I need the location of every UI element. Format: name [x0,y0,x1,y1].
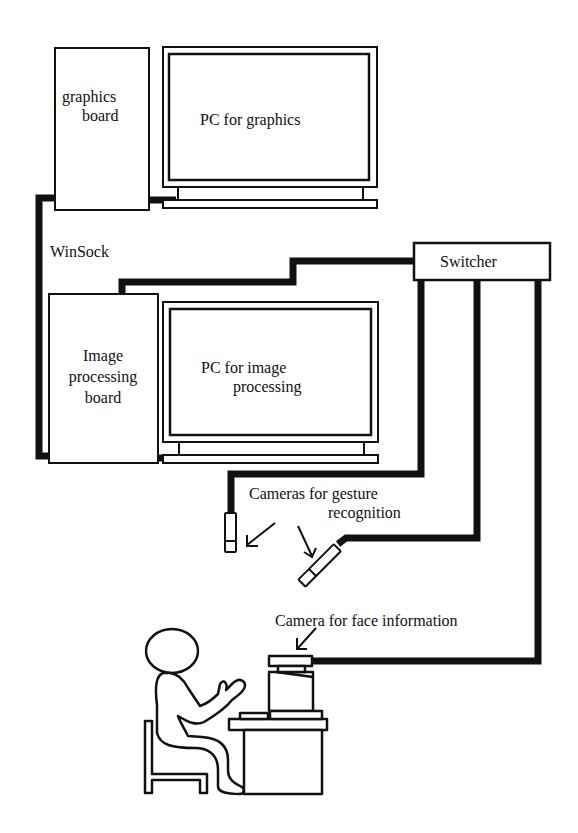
face-camera-icon [269,656,312,666]
graphics-board-box [55,48,149,210]
arrow-to-face-camera-icon [297,628,316,649]
image-board-label: Image processing board [50,346,156,407]
pc-graphics-label: PC for graphics [200,110,300,129]
arrow-to-camera-1-icon [247,523,275,546]
face-camera-label: Camera for face information [275,611,458,630]
gesture-cameras-label: Cameras for gesture recognition [249,484,401,522]
pc-image-label: PC for image processing [201,358,301,396]
switcher-image-board-cable [122,261,414,293]
gesture-camera-2-icon [298,544,340,586]
gesture-camera-1-icon [225,513,236,552]
switcher-label: Switcher [440,252,497,271]
arrow-to-camera-2-icon [298,526,316,557]
user-workstation [145,629,327,794]
person-head-icon [146,629,198,673]
user-monitor-icon [269,672,313,711]
graphics-board-label: graphics board [62,87,118,125]
desk-icon [229,719,327,730]
winsock-label: WinSock [50,242,109,261]
keyboard-icon [240,713,268,719]
